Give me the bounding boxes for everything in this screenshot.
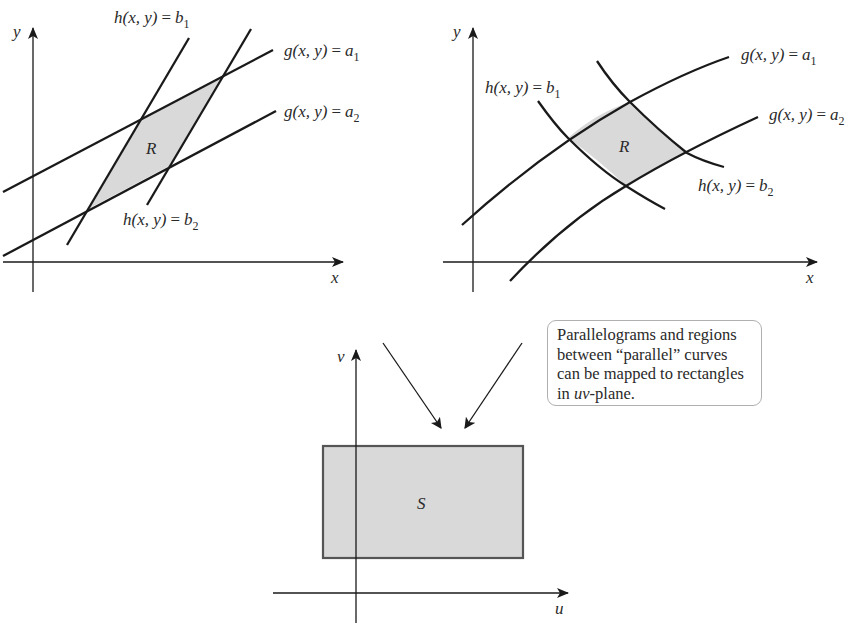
v-axis-label: v [337, 347, 345, 366]
label-g-a2: g(x, y)=a2 [284, 102, 360, 125]
label-g-a2: g(x, y)=a2 [769, 105, 845, 128]
callout-note: Parallelograms and regions between “para… [547, 320, 762, 406]
left-panel: y x R h(x, y)=b1 g(x, y)=a1 g(x, y)=a2 h… [3, 8, 360, 292]
callout-line-3: can be mapped to rectangles [557, 364, 761, 384]
y-axis-label: y [11, 22, 21, 41]
diagram-canvas: y x R h(x, y)=b1 g(x, y)=a1 g(x, y)=a2 h… [0, 0, 866, 631]
label-h-b2: h(x, y)=b2 [698, 176, 774, 199]
u-axis-label: u [555, 599, 564, 618]
label-g-a1: g(x, y)=a1 [284, 41, 360, 64]
callout-line-2: between “parallel” curves [557, 345, 761, 365]
region-label: S [417, 494, 426, 513]
region-label: R [145, 139, 157, 158]
bottom-panel: v u S [273, 343, 568, 623]
x-axis-label: x [330, 268, 339, 287]
right-panel: y x R g(x, y)=a1 g(x, y)=a2 h(x, y)=b1 h… [443, 22, 845, 292]
mapping-arrow-right-icon [465, 343, 522, 428]
label-g-a1: g(x, y)=a1 [741, 45, 817, 68]
callout-line-4: in uv-plane. [557, 384, 761, 404]
callout-line-1: Parallelograms and regions [557, 325, 761, 345]
y-axis-label: y [451, 22, 461, 41]
label-h-b2: h(x, y)=b2 [123, 210, 199, 233]
label-h-b1: h(x, y)=b1 [485, 78, 561, 101]
x-axis-label: x [805, 268, 814, 287]
label-h-b1: h(x, y)=b1 [114, 8, 190, 31]
region-label: R [618, 137, 630, 156]
mapping-arrow-left-icon [383, 343, 441, 428]
